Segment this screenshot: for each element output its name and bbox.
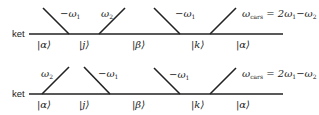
state-label: |α⟩	[37, 39, 51, 51]
interaction-label-3: −ω1	[175, 8, 195, 20]
interaction-label-3: −ω1	[169, 69, 189, 81]
ket-label: ket	[12, 28, 25, 39]
feynman-ket-diagrams: ket −ω1 ω2 −ω1 ωcars = 2ω1−ω2 |α⟩ |j⟩ |β…	[0, 0, 319, 115]
state-label: |α⟩	[236, 99, 250, 111]
interaction-line-4	[210, 68, 236, 94]
interaction-label-2: ω2	[101, 8, 113, 20]
interaction-line-4	[210, 8, 236, 34]
interaction-label-1: ω2	[41, 68, 53, 80]
state-label: |k⟩	[191, 99, 204, 111]
ket-diagram-1: ket −ω1 ω2 −ω1 ωcars = 2ω1−ω2 |α⟩ |j⟩ |β…	[12, 8, 317, 51]
state-label: |k⟩	[191, 39, 204, 51]
state-label: |α⟩	[37, 99, 51, 111]
ket-diagram-2: ket ω2 −ω1 −ω1 ωcars = 2ω1−ω2 |α⟩ |j⟩ |β…	[12, 67, 317, 111]
ket-label: ket	[12, 88, 25, 99]
state-label: |β⟩	[132, 99, 145, 111]
state-label: |j⟩	[79, 39, 89, 51]
state-label: |j⟩	[79, 99, 89, 111]
state-label: |β⟩	[132, 39, 145, 51]
interaction-label-4: ωcars = 2ω1−ω2	[242, 68, 317, 80]
interaction-label-4: ωcars = 2ω1−ω2	[242, 8, 317, 20]
interaction-label-2: −ω1	[98, 68, 118, 80]
state-label: |α⟩	[236, 39, 250, 51]
interaction-label-1: −ω1	[60, 8, 80, 20]
